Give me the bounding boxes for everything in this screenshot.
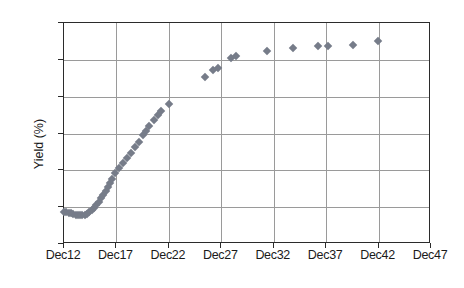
- data-point: [263, 47, 271, 55]
- x-tick-label: Dec47: [413, 248, 448, 262]
- gridline-vertical: [169, 23, 170, 242]
- x-tick-label: Dec22: [151, 248, 186, 262]
- gridline-vertical: [116, 23, 117, 242]
- gridline-horizontal: [64, 134, 429, 135]
- data-point: [200, 73, 208, 81]
- y-axis-title: Yield (%): [32, 119, 46, 169]
- gridline-horizontal: [64, 207, 429, 208]
- gridline-vertical: [221, 23, 222, 242]
- yield-curve-chart: Yield (%) 2.52.01.51.00.50.0-0.5 Dec12De…: [0, 0, 464, 288]
- x-tick-label: Dec42: [360, 248, 395, 262]
- data-point: [373, 37, 381, 45]
- x-tick-label: Dec32: [255, 248, 290, 262]
- gridline-horizontal: [64, 60, 429, 61]
- x-tick-label: Dec37: [308, 248, 343, 262]
- gridline-vertical: [379, 23, 380, 242]
- x-tick-label: Dec17: [98, 248, 133, 262]
- plot-area: [63, 22, 430, 243]
- gridline-horizontal: [64, 97, 429, 98]
- data-point: [165, 100, 173, 108]
- data-point: [349, 41, 357, 49]
- gridline-vertical: [326, 23, 327, 242]
- x-tick-label: Dec27: [203, 248, 238, 262]
- data-point: [314, 42, 322, 50]
- gridline-vertical: [274, 23, 275, 242]
- data-point: [288, 44, 296, 52]
- x-tick-label: Dec12: [46, 248, 81, 262]
